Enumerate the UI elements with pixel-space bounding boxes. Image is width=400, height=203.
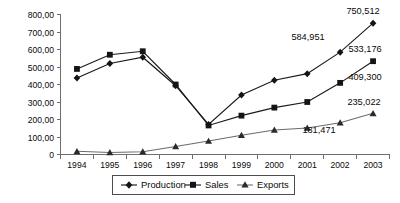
x-tick-label: 1997: [166, 160, 185, 170]
x-tick-label: 1994: [67, 160, 86, 170]
square-marker: [173, 82, 179, 88]
x-tick-label: 2003: [363, 160, 382, 170]
y-tick-label: 400,00: [28, 80, 55, 90]
data-label-sales-2002: 409,300: [348, 72, 381, 82]
x-axis: 1994 1995 1996 1997 1998 1999 2000 2001 …: [61, 155, 390, 171]
x-tick-label: 2001: [298, 160, 317, 170]
square-marker: [239, 113, 245, 119]
diamond-marker: [271, 77, 278, 84]
y-axis: 800,00 700,00 600,00 500,00 400,00 300,0…: [28, 10, 61, 160]
legend-label-sales: Sales: [205, 179, 229, 190]
chart-legend: Production Sales Exports: [113, 176, 295, 195]
square-marker: [370, 58, 376, 64]
square-marker: [271, 105, 277, 111]
y-tick-label: 800,00: [28, 10, 55, 20]
x-tick-label: 1995: [100, 160, 119, 170]
square-marker: [206, 123, 212, 129]
series-production: [74, 20, 377, 128]
square-marker: [74, 66, 80, 72]
y-tick-label: 300,00: [28, 98, 55, 108]
x-tick-label: 1998: [199, 160, 218, 170]
chart-canvas: 800,00 700,00 600,00 500,00 400,00 300,0…: [0, 0, 400, 203]
legend-label-production: Production: [141, 179, 186, 190]
y-tick-label: 500,00: [28, 63, 55, 73]
legend-label-exports: Exports: [257, 179, 289, 190]
y-tick-label: 700,00: [28, 28, 55, 38]
line-chart: 800,00 700,00 600,00 500,00 400,00 300,0…: [0, 0, 400, 203]
x-tick-label: 1996: [133, 160, 152, 170]
x-tick-label: 1999: [232, 160, 251, 170]
series-line-production: [77, 23, 373, 124]
data-label-sales-2003: 533,176: [348, 44, 381, 54]
y-tick-label: 600,00: [28, 45, 55, 55]
y-tick-label: 0: [49, 150, 54, 160]
square-marker: [337, 80, 343, 86]
square-marker: [140, 48, 146, 54]
square-marker: [304, 99, 310, 105]
y-tick-group: 800,00 700,00 600,00 500,00 400,00 300,0…: [28, 10, 61, 160]
diamond-marker: [74, 75, 81, 82]
square-marker: [107, 52, 113, 58]
x-tick-label: 2002: [331, 160, 350, 170]
data-labels: 750,512 584,951 533,176 409,300 235,022 …: [291, 6, 381, 135]
triangle-marker: [370, 110, 377, 116]
data-label-exports-2002: 181,471: [302, 125, 335, 135]
data-label-production-2003: 750,512: [346, 6, 379, 16]
diamond-marker: [304, 70, 311, 77]
y-tick-label: 200,00: [28, 115, 55, 125]
y-tick-label: 100,00: [28, 133, 55, 143]
x-tick-label: 2000: [265, 160, 284, 170]
data-label-exports-2003: 235,022: [347, 97, 380, 107]
series-sales: [74, 48, 376, 128]
x-tick-labels: 1994 1995 1996 1997 1998 1999 2000 2001 …: [67, 160, 382, 170]
square-icon: [190, 182, 196, 188]
data-label-production-2002: 584,951: [291, 32, 324, 42]
diamond-marker: [107, 60, 114, 67]
series-line-sales: [77, 51, 373, 125]
